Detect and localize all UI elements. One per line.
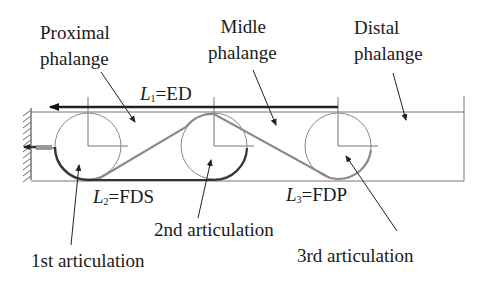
middle-label: Midle phalange <box>210 16 277 63</box>
tendon-fds-label: L2=FDS <box>93 186 154 212</box>
l2-symbol: L <box>93 186 104 207</box>
tendon-fds <box>55 147 247 180</box>
distal-label-line1: Distal <box>354 17 423 38</box>
tendon-ed-label: L1=ED <box>140 83 192 109</box>
tendon-fdp <box>35 114 371 180</box>
articulation3-label: 3rd articulation <box>297 245 414 266</box>
l3-symbol: L <box>286 184 297 205</box>
articulation1-label: 1st articulation <box>31 250 144 271</box>
l2-name: =FDS <box>109 186 155 207</box>
fixed-wall <box>23 108 31 182</box>
proximal-label: Proximal phalange <box>40 22 110 69</box>
l1-name: =ED <box>156 83 192 104</box>
middle-label-line1: Midle <box>210 16 277 37</box>
fdp-anchor <box>36 145 52 150</box>
l1-symbol: L <box>140 83 151 104</box>
distal-label-line2: phalange <box>354 43 423 64</box>
tendon-fdp-label: L3=FDP <box>286 184 347 210</box>
phalange-outline <box>31 96 464 181</box>
middle-label-line2: phalange <box>208 42 277 63</box>
articulation2-label: 2nd articulation <box>154 219 274 240</box>
l3-name: =FDP <box>302 184 348 205</box>
distal-label: Distal phalange <box>354 17 423 64</box>
proximal-label-line1: Proximal <box>40 22 110 43</box>
proximal-label-line2: phalange <box>40 48 110 69</box>
